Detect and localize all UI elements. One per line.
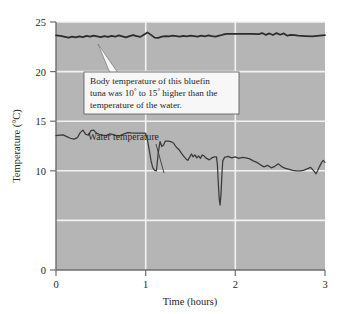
y-tick-label-0: 0	[41, 265, 46, 276]
temperature-chart: 25 20 15 10 0 0 1 2 3 Time (hours) Tempe…	[0, 0, 343, 314]
x-tick-label-0: 0	[53, 279, 58, 290]
x-tick-label-3: 3	[322, 279, 327, 290]
water-temperature-label: Water temperature	[88, 131, 159, 142]
y-tick-label-25: 25	[36, 17, 47, 28]
figure-container: 25 20 15 10 0 0 1 2 3 Time (hours) Tempe…	[0, 0, 343, 314]
callout-line-1: Body temperature of this bluefin	[90, 76, 210, 86]
y-axis-title: Temperature (°C)	[11, 109, 23, 183]
x-axis-title: Time (hours)	[163, 296, 218, 308]
callout-line-3: temperature of the water.	[90, 100, 182, 110]
x-tick-label-2: 2	[233, 279, 238, 290]
callout-box-body-temperature: Body temperature of this bluefin tuna wa…	[84, 72, 239, 114]
y-tick-label-10: 10	[36, 166, 47, 177]
y-tick-label-15: 15	[36, 116, 47, 127]
callout-line-2: tuna was 10° to 15° higher than the	[90, 87, 217, 98]
plot-area-background	[56, 22, 325, 270]
x-tick-label-1: 1	[143, 279, 148, 290]
y-tick-label-20: 20	[36, 67, 47, 78]
